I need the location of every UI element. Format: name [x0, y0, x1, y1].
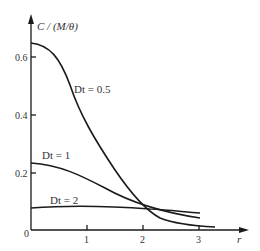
- label-dt-0.5: Dt = 0.5: [74, 83, 111, 95]
- series-dt-2: [31, 206, 200, 213]
- y-axis-label: C / (M/θ): [37, 20, 78, 33]
- y-tick-label: 0.6: [15, 52, 28, 63]
- y-tick-label: 0.4: [15, 110, 28, 121]
- chart: 0.6 0.4 0.2 0 1 2 3 C / (M/θ) r Dt = 0.5…: [0, 0, 260, 251]
- label-dt-1: Dt = 1: [42, 149, 70, 161]
- origin-label: 0: [24, 228, 29, 239]
- y-axis-arrow-icon: [28, 14, 34, 24]
- y-tick-label: 0.2: [15, 168, 28, 179]
- label-dt-2: Dt = 2: [50, 194, 78, 206]
- x-axis-label: r: [237, 233, 242, 245]
- x-tick-label: 1: [84, 234, 89, 245]
- x-tick-label: 3: [196, 234, 201, 245]
- x-tick-label: 2: [140, 234, 145, 245]
